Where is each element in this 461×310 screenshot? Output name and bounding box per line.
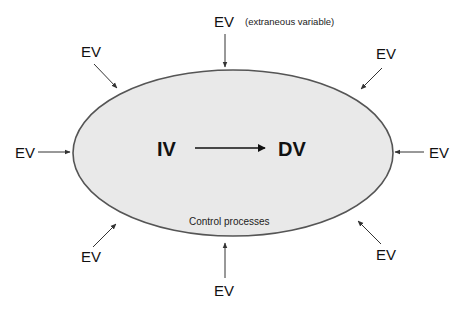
ev-label-top-right: EV [376,46,396,61]
iv-label: IV [157,139,176,159]
ev-label-right: EV [429,145,449,160]
ev-label-top-left: EV [81,44,101,59]
control-processes-label: Control processes [189,217,270,227]
extraneous-variable-note: (extraneous variable) [245,17,334,27]
control-process-ellipse [73,70,393,236]
ev-arrow-top-right [361,68,382,89]
ev-arrow-bottom-left [93,224,116,247]
ev-label-bottom-left: EV [81,249,101,264]
ev-label-bottom: EV [214,283,234,298]
ev-label-bottom-right: EV [376,247,396,262]
ev-label-top: EV [214,14,234,29]
ev-label-left: EV [15,145,35,160]
ev-arrow-top-left [94,64,117,88]
ev-arrow-bottom-right [358,221,381,244]
dv-label: DV [278,139,306,159]
